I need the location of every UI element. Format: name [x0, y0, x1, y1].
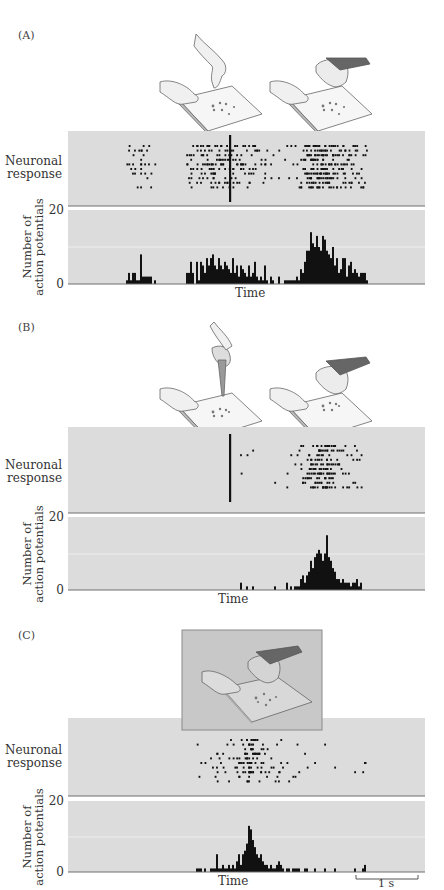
panel-label-c: (C): [18, 629, 35, 642]
hist-ylabel-b-line2: action potentials: [33, 499, 45, 609]
xlabel-a: Time: [235, 286, 265, 300]
raster-ylabel-c-line2: response: [0, 757, 62, 770]
illustration-c-box: [182, 630, 322, 730]
ytick-max-b: 20: [48, 510, 64, 524]
xlabel-b: Time: [218, 592, 248, 606]
hist-ylabel-a: Number of action potentials: [21, 192, 45, 302]
ytick-min-b: 0: [48, 583, 64, 597]
illustration-a-monkey-hand: [270, 58, 372, 134]
ytick-max-a: 20: [48, 203, 64, 217]
ytick-max-c: 20: [48, 794, 64, 808]
figure-canvas: [0, 0, 444, 890]
raster-panel-b: [68, 427, 425, 513]
raster-ylabel-c: Neuronal response: [0, 744, 62, 770]
panel-label-b: (B): [18, 321, 35, 334]
raster-ylabel-b-line2: response: [0, 472, 62, 485]
event-marker-a: [229, 135, 231, 202]
scale-bar-label: 1 s: [378, 877, 394, 890]
hist-ylabel-b: Number of action potentials: [21, 499, 45, 609]
ytick-min-a: 0: [48, 277, 64, 291]
raster-ylabel-a: Neuronal response: [0, 155, 62, 181]
hist-ylabel-a-line2: action potentials: [33, 192, 45, 302]
hist-ylabel-c: Number of action potentials: [21, 782, 45, 890]
illustration-b-pliers-hand: [160, 322, 262, 441]
raster-panel-a: [68, 131, 425, 206]
event-marker-b: [229, 434, 231, 502]
raster-ylabel-a-line2: response: [0, 168, 62, 181]
hist-ylabel-c-line2: action potentials: [33, 782, 45, 890]
illustration-a-human-hand: [160, 34, 262, 134]
ytick-min-c: 0: [48, 865, 64, 879]
raster-ylabel-b: Neuronal response: [0, 459, 62, 485]
histogram-panel-b: [68, 517, 425, 590]
xlabel-c: Time: [218, 874, 248, 888]
